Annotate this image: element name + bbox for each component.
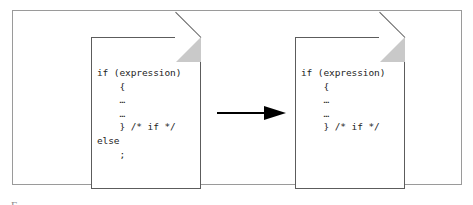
page-fold-edge — [175, 12, 201, 38]
page-fold-edge — [379, 12, 405, 38]
document-card-before: if (expression) { … … } /* if */ else ; — [91, 37, 201, 189]
code-block-after: if (expression) { … … } /* if */ — [301, 66, 401, 134]
document-card-after: if (expression) { … … } /* if */ — [295, 37, 405, 189]
code-block-before: if (expression) { … … } /* if */ else ; — [97, 66, 197, 161]
page-fold-triangle — [380, 37, 405, 62]
figure-frame: if (expression) { … … } /* if */ else ; … — [12, 10, 462, 185]
page-fold-triangle — [176, 37, 201, 62]
transformation-arrow-icon — [216, 104, 288, 122]
caption-fragment: F — [11, 200, 20, 205]
